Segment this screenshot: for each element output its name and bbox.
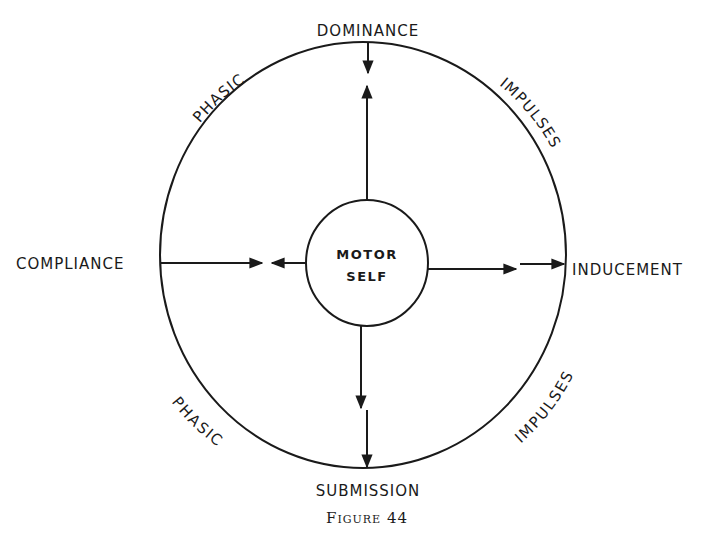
arc-label-lower-right: IMPULSES bbox=[511, 368, 577, 447]
motor-self-circle bbox=[306, 200, 428, 326]
arc-label-upper-left: PHASIC bbox=[189, 70, 248, 126]
arc-label-upper-right: IMPULSES bbox=[496, 74, 564, 151]
arc-label-lower-right-text: IMPULSES bbox=[511, 368, 577, 447]
submission-label: SUBMISSION bbox=[316, 482, 421, 500]
center-label-line1: MOTOR bbox=[336, 247, 397, 262]
center-label-line2: SELF bbox=[346, 269, 387, 284]
dominance-label: DOMINANCE bbox=[317, 22, 419, 40]
motor-self-diagram: MOTOR SELF DOMINANCE SUBMISSION COMPLIAN… bbox=[0, 0, 722, 541]
arc-label-upper-left-text: PHASIC bbox=[189, 70, 248, 126]
arc-label-lower-left: PHASIC bbox=[168, 393, 226, 450]
figure-caption: Figure 44 bbox=[326, 509, 408, 527]
inducement-label: INDUCEMENT bbox=[572, 261, 683, 279]
arc-label-lower-left-text: PHASIC bbox=[168, 393, 226, 450]
compliance-label: COMPLIANCE bbox=[16, 255, 124, 273]
arc-label-upper-right-text: IMPULSES bbox=[496, 74, 564, 151]
